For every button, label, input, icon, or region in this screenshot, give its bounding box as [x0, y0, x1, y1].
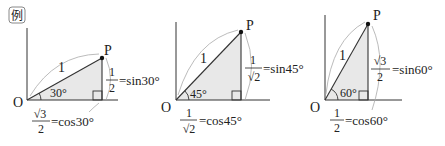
svg-text:=sin30°: =sin30° — [119, 73, 160, 88]
svg-text:2: 2 — [109, 81, 115, 95]
trig-diagrams: 例 P O 1 30° 1 2 =sin30° √3 2 =cos30° — [0, 0, 445, 146]
svg-text:1: 1 — [250, 53, 256, 67]
svg-text:1: 1 — [339, 48, 346, 63]
svg-text:O: O — [161, 100, 171, 115]
svg-text:2: 2 — [38, 122, 44, 136]
svg-text:=cos30°: =cos30° — [51, 114, 94, 129]
example-badge: 例 — [9, 7, 25, 23]
svg-text:1: 1 — [58, 60, 65, 75]
svg-text:O: O — [310, 100, 320, 115]
diagram-45: P O 1 45° 1 √2 =sin45° 1 √2 =cos45° — [161, 18, 304, 136]
svg-text:=cos45°: =cos45° — [199, 113, 242, 128]
svg-text:例: 例 — [11, 9, 23, 23]
svg-text:45°: 45° — [190, 87, 207, 101]
svg-text:=sin60°: =sin60° — [392, 62, 433, 77]
svg-text:2: 2 — [334, 121, 340, 135]
svg-text:√3: √3 — [34, 107, 47, 121]
svg-text:1: 1 — [186, 106, 192, 120]
svg-text:=sin45°: =sin45° — [263, 61, 304, 76]
svg-text:√2: √2 — [248, 70, 261, 84]
svg-text:60°: 60° — [340, 86, 357, 100]
svg-text:1: 1 — [109, 65, 115, 79]
svg-text:P: P — [373, 8, 381, 23]
svg-text:=cos60°: =cos60° — [345, 113, 388, 128]
svg-text:1: 1 — [334, 106, 340, 120]
svg-text:√2: √2 — [183, 122, 196, 136]
svg-text:1: 1 — [200, 51, 207, 66]
svg-text:P: P — [104, 43, 112, 58]
svg-text:30°: 30° — [50, 86, 67, 100]
brace-sin — [372, 26, 380, 110]
svg-text:O: O — [13, 95, 23, 110]
svg-text:2: 2 — [377, 70, 383, 84]
diagram-60: P O 1 60° √3 2 =sin60° 1 2 =cos60° — [310, 8, 433, 135]
point-p — [239, 30, 243, 34]
point-p — [366, 22, 370, 26]
svg-text:P: P — [246, 18, 254, 33]
svg-text:√3: √3 — [374, 54, 387, 68]
diagram-30: P O 1 30° 1 2 =sin30° √3 2 =cos30° — [13, 28, 160, 136]
